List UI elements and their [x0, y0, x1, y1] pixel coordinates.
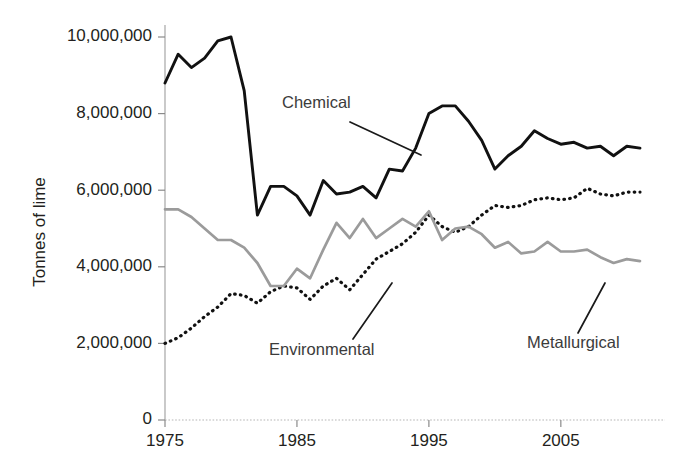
- series-annotations: ChemicalEnvironmentalMetallurgical: [269, 93, 620, 358]
- line-chart: 02,000,0004,000,0006,000,0008,000,00010,…: [0, 0, 674, 476]
- y-tick-label: 8,000,000: [76, 103, 152, 122]
- y-tick-label: 6,000,000: [76, 180, 152, 199]
- y-tick-label: 0: [143, 409, 152, 428]
- x-tick-label: 2005: [542, 431, 580, 450]
- y-tick-label: 2,000,000: [76, 333, 152, 352]
- y-tick-label: 10,000,000: [67, 26, 152, 45]
- leader-line-metallurgical: [578, 283, 605, 333]
- x-tick-label: 1995: [410, 431, 448, 450]
- chart-canvas: 02,000,0004,000,0006,000,0008,000,00010,…: [0, 0, 674, 476]
- leader-line-environmental: [353, 283, 392, 339]
- series-lines: [165, 37, 640, 343]
- x-axis: 1975198519952005: [146, 420, 665, 450]
- x-tick-label: 1975: [146, 431, 184, 450]
- x-tick-label: 1985: [278, 431, 316, 450]
- series-label-environmental: Environmental: [269, 340, 374, 358]
- leader-line-chemical: [350, 122, 421, 155]
- series-label-chemical: Chemical: [282, 93, 351, 111]
- series-label-metallurgical: Metallurgical: [527, 333, 620, 351]
- y-axis: 02,000,0004,000,0006,000,0008,000,00010,…: [67, 25, 165, 428]
- series-line-chemical: [165, 37, 640, 215]
- series-line-metallurgical: [165, 209, 640, 286]
- y-axis-title: Tonnes of lime: [30, 177, 49, 287]
- y-tick-label: 4,000,000: [76, 256, 152, 275]
- series-line-environmental: [165, 188, 640, 343]
